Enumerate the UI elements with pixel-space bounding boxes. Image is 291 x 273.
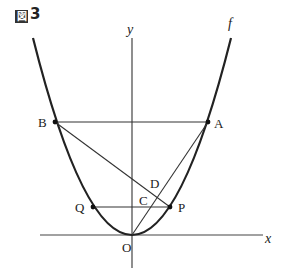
segment-OA bbox=[132, 122, 208, 235]
point-P bbox=[168, 205, 173, 210]
label-B: B bbox=[38, 115, 47, 130]
point-Q bbox=[91, 205, 96, 210]
label-D: D bbox=[150, 176, 159, 191]
parabola-diagram: x y f O B A Q P C D bbox=[0, 0, 291, 273]
point-A bbox=[206, 120, 211, 125]
curve-label-f: f bbox=[228, 16, 234, 31]
label-Q: Q bbox=[75, 200, 85, 215]
label-P: P bbox=[178, 200, 185, 215]
origin-label: O bbox=[122, 240, 131, 255]
x-axis-label: x bbox=[264, 231, 272, 246]
label-C: C bbox=[139, 193, 148, 208]
point-B bbox=[53, 120, 58, 125]
y-axis-label: y bbox=[125, 22, 134, 37]
label-A: A bbox=[214, 116, 224, 131]
